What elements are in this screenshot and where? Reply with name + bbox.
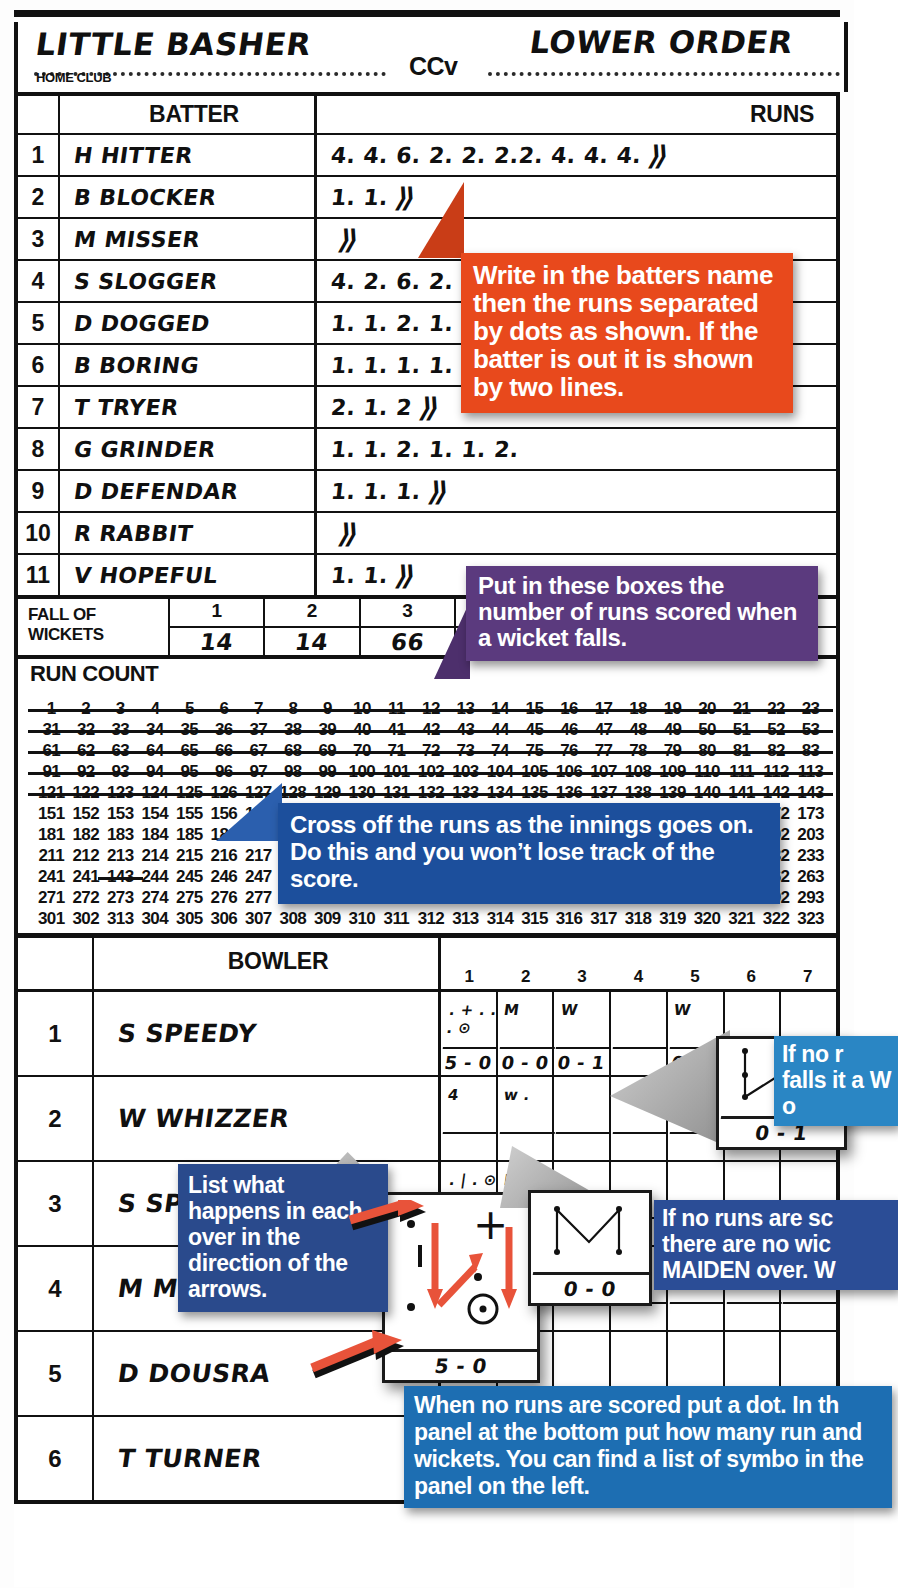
run-count-number[interactable]: 245 bbox=[172, 867, 207, 887]
run-count-number[interactable]: 113 bbox=[793, 762, 828, 782]
run-count-number[interactable]: 212 bbox=[69, 846, 104, 866]
run-count-row: 1211221231241251261271281291301311321331… bbox=[34, 782, 828, 803]
run-count-number[interactable]: 314 bbox=[483, 909, 518, 929]
run-count-number[interactable]: 316 bbox=[552, 909, 587, 929]
run-count-number[interactable]: 277 bbox=[241, 888, 276, 908]
batting-out-mark: ⟫ bbox=[392, 182, 414, 213]
batting-row: 9D DEFENDAR1. 1. 1.⟫ bbox=[18, 471, 836, 513]
run-count-number[interactable]: 23 bbox=[793, 699, 828, 719]
over-cell[interactable]: 4 bbox=[441, 1077, 498, 1160]
run-count-number[interactable]: 211 bbox=[34, 846, 69, 866]
run-count-number[interactable]: 247 bbox=[241, 867, 276, 887]
run-count-number[interactable]: 216 bbox=[207, 846, 242, 866]
run-count-number[interactable]: 263 bbox=[793, 867, 828, 887]
run-count-number[interactable]: 246 bbox=[207, 867, 242, 887]
run-count-number[interactable]: 319 bbox=[655, 909, 690, 929]
over-balls bbox=[554, 1332, 609, 1387]
bowling-row-name: S SPEEDY bbox=[94, 992, 441, 1075]
batting-row-name: H HITTER bbox=[60, 135, 317, 175]
run-count-number[interactable]: 173 bbox=[793, 804, 828, 824]
run-count-number[interactable]: 153 bbox=[103, 804, 138, 824]
run-count-number[interactable]: 217 bbox=[241, 846, 276, 866]
run-count-number[interactable]: 276 bbox=[207, 888, 242, 908]
batting-row-runs: 1. 1. 2. 1. 1. 2. bbox=[317, 429, 836, 469]
run-count-number[interactable]: 214 bbox=[138, 846, 173, 866]
over-cell[interactable]: M0 - 0 bbox=[498, 992, 555, 1075]
over-cell[interactable]: . + . . . ⊙5 - 0 bbox=[441, 992, 498, 1075]
run-count-number[interactable]: 241 bbox=[34, 867, 69, 887]
bowling-header-row: BOWLER 1234567 bbox=[18, 933, 836, 992]
over-score bbox=[779, 1302, 838, 1330]
run-count-number[interactable]: 272 bbox=[69, 888, 104, 908]
run-count-number[interactable]: 313 bbox=[103, 909, 138, 929]
batting-row-number: 4 bbox=[18, 261, 60, 301]
run-count-number[interactable]: 308 bbox=[276, 909, 311, 929]
batting-row-number: 6 bbox=[18, 345, 60, 385]
over-number: 4 bbox=[634, 967, 643, 987]
run-count-number[interactable]: 53 bbox=[793, 720, 828, 740]
over-cell[interactable] bbox=[611, 992, 668, 1075]
batting-col-number bbox=[18, 96, 60, 133]
run-count-number[interactable]: 304 bbox=[138, 909, 173, 929]
over-balls: W bbox=[554, 992, 609, 1047]
run-count-number[interactable]: 302 bbox=[69, 909, 104, 929]
callout-blue-dot: When no runs are scored put a dot. In th… bbox=[404, 1386, 892, 1508]
over-score: 0 - 0 bbox=[496, 1047, 555, 1075]
batting-row-name: T TRYER bbox=[60, 387, 317, 427]
run-count-number[interactable]: 293 bbox=[793, 888, 828, 908]
run-count-number[interactable]: 318 bbox=[621, 909, 656, 929]
run-count-number[interactable]: 317 bbox=[586, 909, 621, 929]
run-count-number[interactable]: 271 bbox=[34, 888, 69, 908]
run-count-number[interactable]: 307 bbox=[241, 909, 276, 929]
batting-row-name: V HOPEFUL bbox=[60, 555, 317, 595]
run-count-number[interactable]: 215 bbox=[172, 846, 207, 866]
callout-blue-dot-text: When no runs are scored put a dot. In th… bbox=[414, 1392, 884, 1500]
run-count-number[interactable]: 183 bbox=[103, 825, 138, 845]
over-score bbox=[609, 1132, 668, 1160]
run-count-number[interactable]: 143 bbox=[793, 783, 828, 803]
run-count-number[interactable]: 182 bbox=[69, 825, 104, 845]
run-count-number[interactable]: 233 bbox=[793, 846, 828, 866]
run-count-number[interactable]: 310 bbox=[345, 909, 380, 929]
run-count-number[interactable]: 320 bbox=[690, 909, 725, 929]
run-count-number[interactable]: 155 bbox=[172, 804, 207, 824]
run-count-number[interactable]: 151 bbox=[34, 804, 69, 824]
run-count-number[interactable]: 312 bbox=[414, 909, 449, 929]
run-count-number[interactable]: 154 bbox=[138, 804, 173, 824]
run-count-number[interactable]: 309 bbox=[310, 909, 345, 929]
versus-label: CCv bbox=[409, 52, 458, 81]
run-count-number[interactable]: 274 bbox=[138, 888, 173, 908]
over-number: 5 bbox=[690, 967, 699, 987]
run-count-number[interactable]: 143 bbox=[103, 867, 138, 887]
run-count-number[interactable]: 275 bbox=[172, 888, 207, 908]
over-cell[interactable]: w . bbox=[498, 1077, 555, 1160]
run-count-number[interactable]: 313 bbox=[448, 909, 483, 929]
run-count-number[interactable]: 322 bbox=[759, 909, 794, 929]
run-count-number[interactable]: 323 bbox=[793, 909, 828, 929]
over-cell[interactable]: W0 - 1 bbox=[554, 992, 611, 1075]
callout-blue-runcount: Cross off the runs as the innings goes o… bbox=[278, 803, 780, 904]
over-balls bbox=[668, 1332, 723, 1387]
run-count-number[interactable]: 185 bbox=[172, 825, 207, 845]
over-cell[interactable] bbox=[554, 1077, 611, 1160]
run-count-number[interactable]: 152 bbox=[69, 804, 104, 824]
run-count-number[interactable]: 273 bbox=[103, 888, 138, 908]
batting-col-runs: RUNS bbox=[317, 96, 836, 133]
run-count-number[interactable]: 311 bbox=[379, 909, 414, 929]
run-count-number[interactable]: 306 bbox=[207, 909, 242, 929]
batting-row-number: 9 bbox=[18, 471, 60, 511]
run-count-number[interactable]: 181 bbox=[34, 825, 69, 845]
run-count-number[interactable]: 301 bbox=[34, 909, 69, 929]
popout-over-c: 0 - 0 bbox=[528, 1190, 652, 1306]
callout-blue-maiden: If no runs are sc there are no wic MAIDE… bbox=[654, 1200, 898, 1290]
run-count-number[interactable]: 184 bbox=[138, 825, 173, 845]
batting-out-mark: ⟫ bbox=[392, 560, 414, 591]
run-count-number[interactable]: 244 bbox=[138, 867, 173, 887]
run-count-number[interactable]: 203 bbox=[793, 825, 828, 845]
run-count-number[interactable]: 305 bbox=[172, 909, 207, 929]
run-count-number[interactable]: 213 bbox=[103, 846, 138, 866]
run-count-number[interactable]: 321 bbox=[724, 909, 759, 929]
run-count-number[interactable]: 315 bbox=[517, 909, 552, 929]
run-count-number[interactable]: 83 bbox=[793, 741, 828, 761]
